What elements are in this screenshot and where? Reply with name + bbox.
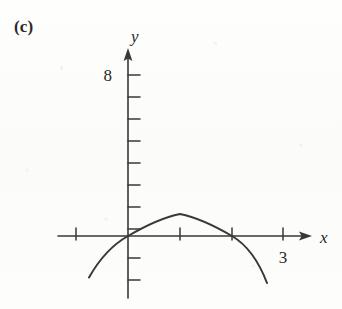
y-axis-ticks xyxy=(128,75,140,280)
figure-container: (c) 8 y xyxy=(0,0,342,309)
y-axis-label: y xyxy=(129,27,139,46)
y-tick-label-8: 8 xyxy=(104,66,113,85)
x-tick-label-3: 3 xyxy=(279,248,288,267)
x-axis-ticks xyxy=(76,228,283,240)
parabola-plot: 8 y 3 x xyxy=(0,0,342,309)
y-axis-group: 8 y xyxy=(104,27,141,298)
x-axis-label: x xyxy=(319,228,328,247)
parabola-curve xyxy=(89,214,267,283)
